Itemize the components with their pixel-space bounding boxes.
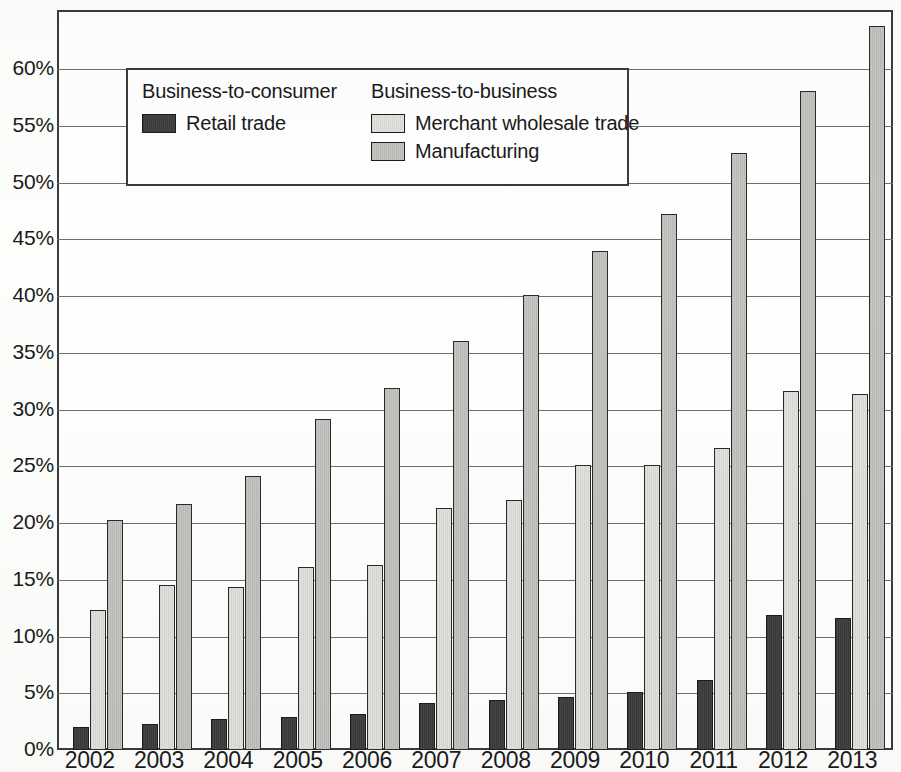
- x-axis-tick-label: 2002: [55, 747, 124, 772]
- bar-retail-trade: [211, 719, 227, 750]
- y-axis-tick: 45%: [0, 226, 54, 250]
- y-axis-tick: 20%: [0, 510, 54, 534]
- x-axis-tick-label: 2006: [332, 747, 401, 772]
- x-axis-tick-label: 2012: [748, 747, 817, 772]
- bar-merchant-wholesale-trade: [714, 448, 730, 750]
- bar-group-2012: [766, 12, 816, 750]
- bar-merchant-wholesale-trade: [575, 465, 591, 750]
- bar-retail-trade: [627, 692, 643, 750]
- y-axis-tick: 30%: [0, 397, 54, 421]
- bar-merchant-wholesale-trade: [228, 587, 244, 750]
- bar-manufacturing: [592, 251, 608, 750]
- x-axis-tick-label: 2005: [263, 747, 332, 772]
- y-axis-tick-label: 50%: [2, 170, 54, 194]
- bar-retail-trade: [350, 714, 366, 750]
- x-axis-tick-label: 2010: [610, 747, 679, 772]
- bar-manufacturing: [869, 26, 885, 750]
- y-axis-tick-label: 30%: [2, 397, 54, 421]
- x-axis-tick-label: 2007: [402, 747, 471, 772]
- y-axis-tick-label: 35%: [2, 340, 54, 364]
- bar-merchant-wholesale-trade: [783, 391, 799, 750]
- legend-label-merchant-wholesale-trade: Merchant wholesale trade: [415, 112, 639, 135]
- legend-group-title: Business-to-consumer: [142, 80, 337, 103]
- bar-manufacturing: [315, 419, 331, 750]
- legend-label-retail-trade: Retail trade: [186, 112, 286, 135]
- bar-manufacturing: [731, 153, 747, 750]
- bar-manufacturing: [176, 504, 192, 750]
- y-axis-tick-label: 55%: [2, 113, 54, 137]
- y-axis-tick-label: 0%: [2, 737, 54, 761]
- bar-merchant-wholesale-trade: [159, 585, 175, 750]
- y-axis-tick-label: 25%: [2, 453, 54, 477]
- bar-retail-trade: [281, 717, 297, 750]
- legend-entry-retail-trade: Retail trade: [142, 112, 337, 135]
- bar-retail-trade: [835, 618, 851, 750]
- bar-merchant-wholesale-trade: [298, 567, 314, 750]
- legend-swatch-retail-trade: [142, 114, 176, 133]
- bar-merchant-wholesale-trade: [436, 508, 452, 750]
- legend-swatch-manufacturing: [371, 142, 405, 161]
- y-axis-tick: 25%: [0, 453, 54, 477]
- bar-retail-trade: [558, 697, 574, 750]
- bar-retail-trade: [489, 700, 505, 750]
- x-axis-tick-label: 2011: [679, 747, 748, 772]
- y-axis-tick-label: 20%: [2, 510, 54, 534]
- y-axis-tick: 50%: [0, 170, 54, 194]
- y-axis-tick: 15%: [0, 567, 54, 591]
- bar-group-2002: [73, 12, 123, 750]
- y-axis-tick: 35%: [0, 340, 54, 364]
- bar-retail-trade: [697, 680, 713, 750]
- bar-manufacturing: [453, 341, 469, 750]
- y-axis-tick: 5%: [0, 680, 54, 704]
- y-axis-tick: 55%: [0, 113, 54, 137]
- y-axis-tick-label: 40%: [2, 283, 54, 307]
- bar-merchant-wholesale-trade: [644, 465, 660, 750]
- x-axis-tick-label: 2013: [818, 747, 887, 772]
- y-axis-tick: 10%: [0, 624, 54, 648]
- legend-swatch-merchant-wholesale-trade: [371, 114, 405, 133]
- legend-group-b2c: Business-to-consumer Retail trade: [142, 80, 337, 140]
- x-axis-tick-label: 2003: [124, 747, 193, 772]
- y-axis-tick: 40%: [0, 283, 54, 307]
- bar-manufacturing: [523, 295, 539, 750]
- bar-group-2013: [835, 12, 885, 750]
- y-axis-tick-label: 10%: [2, 624, 54, 648]
- legend-group-title: Business-to-business: [371, 80, 639, 103]
- bar-manufacturing: [384, 388, 400, 750]
- x-axis-tick-label: 2004: [194, 747, 263, 772]
- bar-merchant-wholesale-trade: [367, 565, 383, 750]
- y-axis-tick: 0%: [0, 737, 54, 761]
- legend-entry-merchant-wholesale-trade: Merchant wholesale trade: [371, 112, 639, 135]
- bar-merchant-wholesale-trade: [506, 500, 522, 750]
- legend-label-manufacturing: Manufacturing: [415, 140, 539, 163]
- bar-retail-trade: [766, 615, 782, 750]
- x-axis-tick-label: 2008: [471, 747, 540, 772]
- legend-group-b2b: Business-to-business Merchant wholesale …: [371, 80, 639, 168]
- bar-retail-trade: [419, 703, 435, 750]
- y-axis-tick-label: 15%: [2, 567, 54, 591]
- bar-merchant-wholesale-trade: [90, 610, 106, 750]
- y-axis-tick: 60%: [0, 56, 54, 80]
- y-axis-tick-label: 5%: [2, 680, 54, 704]
- chart-container: 0%5%10%15%20%25%30%35%40%45%50%55%60% 20…: [0, 0, 901, 772]
- x-axis-tick-label: 2009: [540, 747, 609, 772]
- y-axis-tick-label: 45%: [2, 226, 54, 250]
- bar-merchant-wholesale-trade: [852, 394, 868, 750]
- chart-legend: Business-to-consumer Retail trade Busine…: [126, 68, 629, 186]
- y-axis-tick-label: 60%: [2, 56, 54, 80]
- legend-entry-manufacturing: Manufacturing: [371, 140, 639, 163]
- bar-manufacturing: [800, 91, 816, 750]
- bar-manufacturing: [245, 476, 261, 750]
- bar-manufacturing: [107, 520, 123, 750]
- bar-group-2011: [697, 12, 747, 750]
- bar-manufacturing: [661, 214, 677, 750]
